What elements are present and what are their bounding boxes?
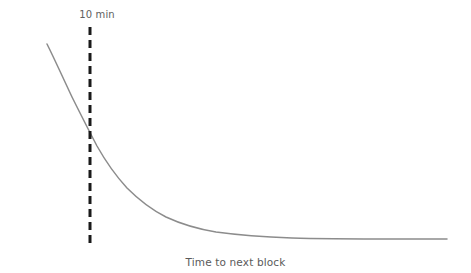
- x-axis-label: Time to next block: [0, 256, 471, 268]
- density-curve: [47, 44, 447, 239]
- ten-minute-marker-label: 10 min: [60, 9, 134, 20]
- chart-figure: 10 min Probability density Time to next …: [0, 0, 471, 273]
- plot-area: [0, 0, 471, 273]
